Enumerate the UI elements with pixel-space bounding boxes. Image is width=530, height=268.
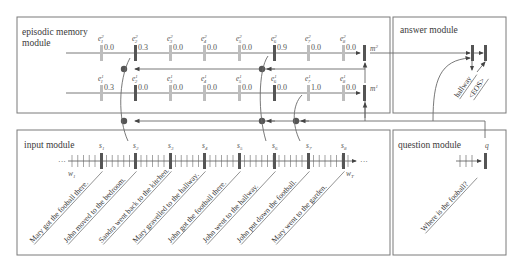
gate-bar (134, 85, 137, 101)
pass1-gates: 0.3e110.0e120.0e130.0e140.0e150.0e161.0e… (98, 74, 356, 101)
m1-label: m1 (370, 84, 378, 93)
svg-text:John moved to the bedroom.: John moved to the bedroom. (62, 175, 128, 245)
sentence: John got the football there. (166, 165, 241, 244)
sentence: John put down the football. (235, 165, 310, 244)
node-pass1-s7 (293, 118, 299, 124)
gate-value: 0.0 (242, 43, 252, 52)
fact-vector (238, 153, 241, 169)
gate-value: 0.0 (346, 83, 356, 92)
gate-bar (238, 85, 241, 101)
ellipsis-right: ··· (360, 157, 368, 166)
dmn-diagram: episodic memory module answer module inp… (0, 0, 530, 268)
gate-label: e11 (98, 74, 103, 84)
answer-feed-arrow (477, 62, 485, 72)
gate-bar (100, 45, 103, 61)
gate-label: e15 (236, 74, 242, 84)
svg-text:John put down the football.: John put down the football. (235, 177, 298, 244)
svg-text:Where is the fooball?: Where is the fooball? (419, 179, 470, 233)
gate-bar (307, 85, 310, 101)
gate-value: 0.0 (207, 83, 217, 92)
fact-vector (169, 153, 172, 169)
gate-bar (238, 45, 241, 61)
sentence: Mary went to the garden. (270, 165, 345, 244)
m2-label: m2 (370, 44, 378, 53)
sentence: Sandra went back to the kitchen. (97, 165, 172, 244)
wT-label: wT (346, 169, 355, 179)
episodic-title-1: episodic memory (22, 27, 88, 37)
gate-bar (342, 45, 345, 61)
fact-label: s8 (341, 141, 347, 151)
fact-vector (342, 153, 345, 169)
gate-label: e12 (132, 74, 138, 84)
gate-value: 0.0 (346, 43, 356, 52)
gate-value: 0.0 (277, 83, 287, 92)
fact-vector (134, 153, 137, 169)
w1-label: w1 (68, 169, 76, 179)
sentence: Mary got the fooball there. (28, 165, 103, 244)
sentence: Mary gravelled to the hallway. (131, 165, 206, 244)
gate-value: 0.0 (173, 83, 183, 92)
fact-label: s6 (272, 141, 278, 151)
gate-bar (169, 85, 172, 101)
gate-bar (273, 85, 276, 101)
gate-value: 0.0 (138, 83, 148, 92)
q-label: q (485, 141, 489, 150)
fact-label: s1 (99, 141, 104, 151)
sentence: John went to the hallway. (201, 165, 276, 244)
fact-vector (203, 153, 206, 169)
gate-value: 0.0 (311, 43, 321, 52)
fact-labels: s1s2s3s4s5s6s7s8 (99, 141, 347, 169)
question-text: Where is the fooball? (419, 172, 477, 234)
gate-label: e18 (340, 74, 346, 84)
ellipsis-left: ··· (58, 157, 66, 166)
answer-title: answer module (400, 25, 458, 35)
fact-label: s7 (306, 141, 312, 151)
pass2-gates: 0.0e210.3e220.0e230.0e240.0e250.9e260.0e… (98, 34, 356, 61)
gate-bar (100, 85, 103, 101)
gate-bar (203, 85, 206, 101)
gate-value: 0.3 (104, 83, 114, 92)
gate-bar (203, 45, 206, 61)
gate-label: e17 (305, 74, 311, 84)
question-title: question module (398, 140, 461, 150)
m1-vector (363, 85, 366, 101)
svg-text:Sandra went back to the kitche: Sandra went back to the kitchen. (97, 166, 171, 245)
gate-bar (273, 45, 276, 61)
fact-label: s2 (133, 141, 139, 151)
gate-value: 0.0 (242, 83, 252, 92)
svg-text:Mary gravelled to the hallway.: Mary gravelled to the hallway. (131, 170, 201, 244)
fact-vector (307, 153, 310, 169)
fact-vector (100, 153, 103, 169)
svg-text:Mary got the fooball there.: Mary got the fooball there. (28, 179, 90, 245)
fact-label: s4 (202, 141, 208, 151)
gate-label: e13 (167, 74, 173, 84)
gate-bar (134, 45, 137, 61)
svg-text:John got the football there.: John got the football there. (166, 179, 228, 245)
gate-bar (342, 85, 345, 101)
gate-value: 0.0 (104, 43, 114, 52)
gate-bar (169, 45, 172, 61)
gate-value: 0.0 (173, 43, 183, 52)
gate-value: 0.0 (207, 43, 217, 52)
answer-state-1 (471, 45, 474, 61)
answer-state-2 (484, 45, 487, 61)
fact-vector (273, 153, 276, 169)
input-title: input module (24, 140, 74, 150)
gate-value: 0.3 (138, 43, 148, 52)
fact-label: s3 (168, 141, 174, 151)
gate-value: 1.0 (311, 83, 321, 92)
q-vector (484, 153, 487, 169)
gate-value: 0.9 (277, 43, 287, 52)
gate-bar (307, 45, 310, 61)
gate-label: e16 (271, 74, 277, 84)
fact-label: s5 (237, 141, 243, 151)
gate-label: e14 (201, 74, 207, 84)
episodic-title-2: module (22, 38, 51, 48)
m2-vector (363, 45, 366, 61)
